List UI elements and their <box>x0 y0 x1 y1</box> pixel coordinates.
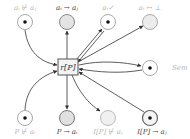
label-transition: r[P] <box>60 63 75 72</box>
arc-p-not-ai-to-r <box>25 71 57 110</box>
token-icon <box>106 20 110 24</box>
label-p-not-ai: P ⊬ aᵢ <box>15 128 36 136</box>
arc-ip-to-aj-to-r <box>79 72 144 112</box>
arc-r-to-ai-check <box>76 29 102 60</box>
token-icon <box>148 116 152 120</box>
petri-net-diagram <box>0 0 190 139</box>
arc-sem-to-r <box>79 69 142 72</box>
place-ai-check[interactable] <box>101 15 116 30</box>
label-ai-check: aᵢ✓ <box>102 4 114 12</box>
label-ip-to-aj: I[P] → aⱼ <box>137 128 166 136</box>
label-ai-to-aj: aᵢ → aⱼ <box>56 4 78 12</box>
arc-ai-not-aj-to-r <box>25 30 57 65</box>
token-icon <box>23 20 27 24</box>
label-ip-not-aj: I[P] ⊬ aⱼ <box>93 128 122 136</box>
place-ip-to-aj[interactable] <box>143 111 158 126</box>
token-icon <box>148 66 152 70</box>
place-sem[interactable] <box>143 61 158 76</box>
arc-r-to-sem <box>79 62 141 66</box>
arc-r-to-ip-not-aj <box>72 75 100 111</box>
place-p-to-ai[interactable] <box>60 111 75 126</box>
token-icon <box>23 116 27 120</box>
arc-r-to-ai-bottom <box>78 26 143 62</box>
label-ai-bottom: aᵢ ↦ ⊥ <box>139 4 161 12</box>
label-ai-not-aj: aᵢ ⊬ aⱼ <box>14 4 36 12</box>
arc-ai-check-to-r <box>78 31 104 62</box>
place-ai-bottom[interactable] <box>143 15 158 30</box>
label-sem: Sem <box>172 64 188 72</box>
place-p-not-ai[interactable] <box>18 111 33 126</box>
place-ai-to-aj[interactable] <box>60 15 75 30</box>
place-ai-not-aj[interactable] <box>18 15 33 30</box>
place-ip-not-aj[interactable] <box>101 111 116 126</box>
label-p-to-ai: P → aᵢ <box>57 128 78 136</box>
